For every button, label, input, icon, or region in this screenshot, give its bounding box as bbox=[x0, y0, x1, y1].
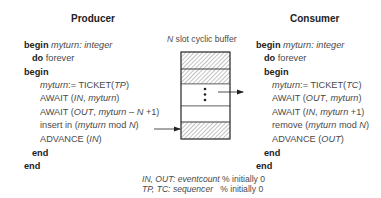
buffer-slots bbox=[181, 52, 230, 139]
buffer-slot-filled bbox=[181, 122, 230, 139]
legend-line-eventcount: IN, OUT: eventcount % initially 0 bbox=[142, 174, 265, 184]
legend-line-sequencer: TP, TC: sequencer % initially 0 bbox=[142, 184, 263, 194]
cyclic-buffer-diagram bbox=[0, 0, 381, 198]
buffer-slot-filled bbox=[181, 69, 230, 84]
legend-comment: % initially 0 bbox=[220, 174, 265, 184]
buffer-slot-filled bbox=[181, 52, 230, 69]
ellipsis-dot bbox=[204, 93, 207, 96]
ellipsis-dot bbox=[204, 88, 207, 91]
legend-type: : sequencer bbox=[168, 184, 213, 194]
ellipsis-dot bbox=[204, 99, 207, 102]
buffer-slot-empty bbox=[181, 106, 230, 122]
legend-vars: TP, TC bbox=[142, 184, 168, 194]
legend-type: : eventcount bbox=[173, 174, 220, 184]
legend-vars: IN, OUT bbox=[142, 174, 173, 184]
legend-comment: % initially 0 bbox=[213, 184, 263, 194]
